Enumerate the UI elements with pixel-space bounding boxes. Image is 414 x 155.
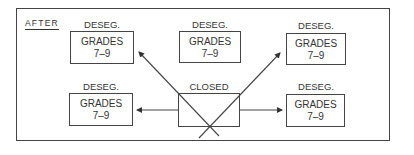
edge-closed-to-top-right	[199, 53, 280, 138]
edges-layer	[0, 0, 414, 155]
edge-closed-to-top-left	[139, 52, 219, 136]
